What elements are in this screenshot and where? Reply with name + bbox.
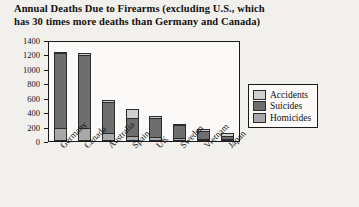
bar-slot [144,42,168,141]
y-axis-tick-labels: 0200400600800100012001400 [10,41,46,142]
bar-slot [168,42,192,141]
y-tick-mark [44,113,48,114]
legend-label-suicides: Suicides [270,101,302,111]
y-tick-mark [44,70,48,71]
chart-title: Annual Deaths Due to Firearms (excluding… [14,2,344,28]
legend-item-homicides: Homicides [253,113,311,123]
y-tick-label: 0 [36,137,40,147]
legend-swatch-homicides-icon [253,113,266,123]
y-tick-mark [44,128,48,129]
y-tick-label: 1000 [23,65,40,75]
stacked-bar [54,52,67,141]
legend-item-suicides: Suicides [253,101,311,111]
y-tick-label: 1200 [23,50,40,60]
chart-title-line-2: has 30 times more deaths than Germany an… [14,16,260,27]
bar-segment-suicides [150,118,161,137]
chart-title-line-1: Annual Deaths Due to Firearms (excluding… [14,3,265,14]
y-tick-label: 600 [27,94,40,104]
bar-slot [49,42,73,141]
bar-segment-accidents [127,110,138,118]
bar-segment-suicides [55,53,66,127]
y-tick-mark [44,84,48,85]
firearm-deaths-chart: Annual Deaths Due to Firearms (excluding… [0,0,359,207]
y-tick-label: 200 [27,123,40,133]
legend-swatch-suicides-icon [253,101,266,111]
legend-label-accidents: Accidents [270,90,308,100]
legend-swatch-accidents-icon [253,90,266,100]
y-tick-mark [44,41,48,42]
y-tick-label: 1400 [23,36,40,46]
legend-item-accidents: Accidents [253,90,311,100]
y-tick-mark [44,142,48,143]
x-axis-tick-labels: GermanyCanadaAustraliaSpainUKSwedenVietn… [48,143,240,203]
bar-segment-suicides [79,55,90,129]
y-tick-mark [44,99,48,100]
y-tick-mark [44,55,48,56]
legend-label-homicides: Homicides [270,113,311,123]
y-tick-label: 400 [27,108,40,118]
chart-legend: Accidents Suicides Homicides [248,84,318,128]
y-tick-label: 800 [27,79,40,89]
